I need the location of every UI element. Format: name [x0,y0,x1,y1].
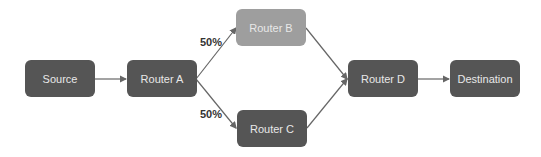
node-router-c: Router C [237,110,307,147]
edge-router-b-router-d [306,28,347,79]
node-label: Destination [457,73,512,85]
node-label: Router C [250,123,294,135]
node-label: Router A [141,73,184,85]
node-router-d: Router D [348,60,418,97]
edge-label-router-c: 50% [200,108,222,120]
node-router-a: Router A [127,60,197,97]
node-source: Source [25,60,95,97]
node-destination: Destination [450,60,520,97]
edge-router-a-router-c [196,79,236,128]
node-router-b: Router B [236,9,306,46]
node-label: Source [43,73,78,85]
edge-router-c-router-d [307,79,347,128]
edge-label-router-b: 50% [200,36,222,48]
node-label: Router D [361,73,405,85]
node-label: Router B [249,22,292,34]
